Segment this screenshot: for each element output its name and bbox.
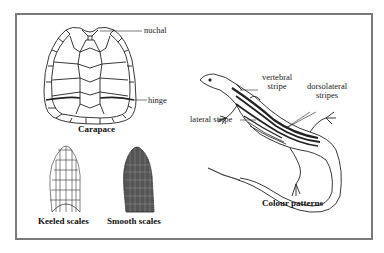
label-hinge: hinge: [148, 96, 167, 105]
caption-colour-patterns: Colour patterns: [262, 199, 323, 208]
label-lateral-stripe: lateral stripe: [190, 115, 232, 124]
caption-keeled-scales: Keeled scales: [38, 217, 89, 226]
carapace-illustration: [44, 27, 147, 124]
label-dorsolateral-line2: stripes: [297, 91, 357, 100]
caption-carapace: Carapace: [78, 125, 115, 134]
smooth-scales-illustration: [124, 147, 155, 212]
label-vertebral-line2: stripe: [255, 82, 299, 91]
label-vertebral-stripe: vertebral stripe: [255, 73, 299, 90]
label-dorsolateral-stripes: dorsolateral stripes: [297, 82, 357, 99]
label-nuchal: nuchal: [144, 26, 167, 35]
caption-smooth-scales: Smooth scales: [107, 217, 161, 226]
keeled-scales-illustration: [50, 146, 81, 212]
